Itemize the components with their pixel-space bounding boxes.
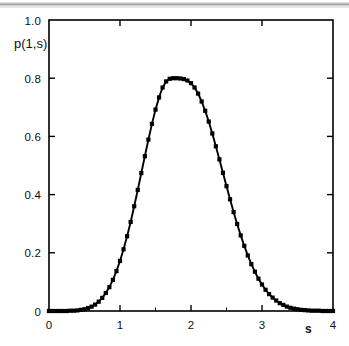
x-tick-label: 2: [188, 319, 195, 331]
x-tick-label: 4: [330, 319, 337, 331]
y-tick-label: 0.6: [24, 131, 41, 143]
figure-container: 0123400.20.40.60.81.0 p(1,s) s: [0, 0, 349, 346]
plot-svg: 0123400.20.40.60.81.0 p(1,s) s: [0, 0, 349, 346]
axis-ticks: [49, 20, 333, 311]
x-tick-label: 3: [259, 319, 266, 331]
axis-tick-labels: 0123400.20.40.60.81.0: [24, 15, 336, 332]
y-tick-label: 0.8: [24, 73, 41, 85]
y-tick-label: 0.4: [24, 189, 41, 201]
x-axis-label: s: [305, 322, 312, 336]
y-tick-label: 0: [34, 306, 41, 318]
axes-frame: [49, 20, 333, 311]
y-axis-label: p(1,s): [14, 36, 47, 51]
data-curve: [49, 78, 333, 311]
y-tick-label: 0.2: [24, 247, 41, 259]
x-tick-label: 1: [117, 319, 124, 331]
y-tick-label: 1.0: [24, 15, 41, 27]
x-tick-label: 0: [46, 319, 53, 331]
data-markers: [47, 76, 335, 313]
